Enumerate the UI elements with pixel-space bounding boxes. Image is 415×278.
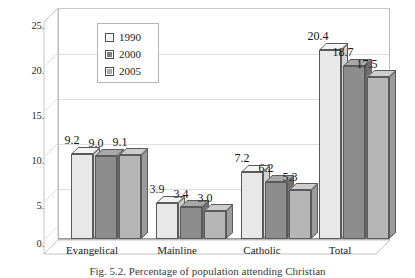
bar-face — [289, 190, 311, 239]
legend-label: 1990 — [119, 32, 141, 43]
figure-caption: Fig. 5.2. Percentage of population atten… — [0, 265, 415, 278]
bar-catholic-2000 — [265, 182, 287, 239]
y-tick-label: 5.0% — [4, 201, 58, 211]
bar-evangelical-1990 — [71, 154, 93, 239]
bar-mainline-2000 — [180, 207, 202, 239]
data-label-total-1990: 20.4 — [300, 30, 336, 42]
bar-face — [156, 203, 178, 239]
legend-item-2000: 2000 — [105, 46, 158, 63]
legend-label: 2005 — [119, 66, 141, 77]
legend-item-1990: 1990 — [105, 29, 158, 46]
bar-face — [180, 207, 202, 239]
bar-face — [241, 172, 263, 239]
legend-label: 2000 — [119, 49, 141, 60]
bar-evangelical-2000 — [95, 156, 117, 239]
bar-face — [367, 77, 389, 239]
legend: 1990 2000 2005 — [97, 23, 159, 83]
x-axis-label-mainline: Mainline — [131, 244, 223, 256]
y-tick-label: 10.0% — [4, 156, 58, 166]
x-axis-label-evangelical: Evangelical — [46, 244, 138, 256]
data-label-total-2000: 18.7 — [325, 46, 361, 58]
bar-group-mainline — [154, 7, 232, 239]
data-label-catholic-2005: 5.3 — [272, 171, 308, 183]
y-tick-label: 25.0% — [4, 21, 58, 31]
data-label-evangelical-2005: 9.1 — [102, 136, 138, 148]
bar-side — [389, 70, 396, 239]
bar-total-2000 — [343, 66, 365, 239]
bar-total-1990 — [319, 50, 341, 239]
bar-mainline-1990 — [156, 203, 178, 239]
legend-swatch-icon — [105, 67, 114, 76]
bar-mainline-2005 — [204, 211, 226, 239]
bar-face — [319, 50, 341, 239]
bar-face — [204, 211, 226, 239]
bar-catholic-1990 — [241, 172, 263, 239]
y-tick-label: 15.0% — [4, 111, 58, 121]
bar-face — [119, 155, 141, 239]
y-tick-label: 20.0% — [4, 66, 58, 76]
y-axis: 25.0% 20.0% 15.0% 10.0% 5.0% 0.0% — [0, 0, 58, 276]
legend-swatch-icon — [105, 33, 114, 42]
bar-face — [71, 154, 93, 239]
legend-item-2005: 2005 — [105, 63, 158, 80]
data-label-mainline-2005: 3.0 — [187, 192, 223, 204]
bar-evangelical-2005 — [119, 155, 141, 239]
bar-face — [95, 156, 117, 239]
legend-swatch-icon — [105, 50, 114, 59]
bar-total-2005 — [367, 77, 389, 239]
data-label-total-2005: 17.5 — [349, 58, 385, 70]
bar-face — [343, 66, 365, 239]
x-axis-label-total: Total — [294, 244, 386, 256]
bar-catholic-2005 — [289, 190, 311, 239]
bar-face — [265, 182, 287, 239]
